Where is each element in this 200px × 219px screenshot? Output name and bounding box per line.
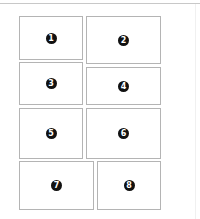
panel-number-badge: 7 <box>51 180 62 191</box>
panel-number-badge: 6 <box>118 128 129 139</box>
right-divider <box>195 4 196 219</box>
panel-7: 7 <box>19 161 94 210</box>
panel-4: 4 <box>86 67 161 105</box>
panel-number-badge: 1 <box>46 33 57 44</box>
panel-1: 1 <box>19 16 83 60</box>
top-divider <box>0 3 200 4</box>
panel-number-badge: 3 <box>46 78 57 89</box>
panel-number-badge: 4 <box>118 81 129 92</box>
panel-number-badge: 8 <box>124 180 135 191</box>
panel-2: 2 <box>86 16 161 64</box>
panel-6: 6 <box>86 108 161 159</box>
panel-number-badge: 5 <box>46 128 57 139</box>
panel-5: 5 <box>19 108 83 159</box>
panel-8: 8 <box>97 161 161 210</box>
panel-3: 3 <box>19 62 83 105</box>
panel-number-badge: 2 <box>118 35 129 46</box>
